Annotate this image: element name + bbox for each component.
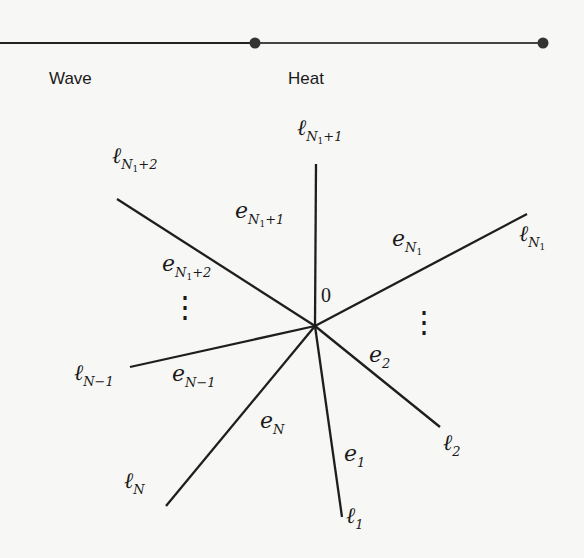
center-vertex-label: 0 <box>321 284 331 307</box>
heat-label: Heat <box>288 69 324 89</box>
edge-eN1p2 <box>117 199 315 326</box>
edge-label-eN1p2: eN1+2 <box>162 253 211 282</box>
vertex-label-lNm1: ℓN−1 <box>74 362 114 388</box>
edge-e1 <box>315 326 342 517</box>
vertex-label-lN1p1: ℓN1+1 <box>297 117 342 146</box>
edge-label-eN1p1: eN1+1 <box>235 200 284 229</box>
vertex-label-lN1p2: ℓN1+2 <box>112 145 157 174</box>
ellipsis-right: ⋮ <box>409 307 439 337</box>
junction-dot <box>250 38 261 49</box>
wave-label: Wave <box>49 69 92 89</box>
ellipsis-left: ⋮ <box>170 292 200 322</box>
vertex-label-l1: ℓ1 <box>346 505 363 531</box>
edge-label-eNm1: eN−1 <box>172 363 216 389</box>
edge-label-eN1: eN1 <box>392 228 422 257</box>
vertex-label-l2: ℓ2 <box>443 432 460 458</box>
vertex-label-lN: ℓN <box>124 470 145 496</box>
edge-label-eN: eN <box>260 410 284 436</box>
edge-label-e2: e2 <box>369 344 390 370</box>
vertex-label-lN1: ℓN1 <box>519 223 545 252</box>
edge-label-e1: e1 <box>344 443 365 469</box>
end-dot <box>538 38 549 49</box>
star-graph-diagram: Wave Heat ℓN1+1 ℓN1+2 ℓN1 ℓN−1 ℓ2 ℓN ℓ1 … <box>0 0 584 558</box>
edge-eN1p1 <box>315 164 316 326</box>
